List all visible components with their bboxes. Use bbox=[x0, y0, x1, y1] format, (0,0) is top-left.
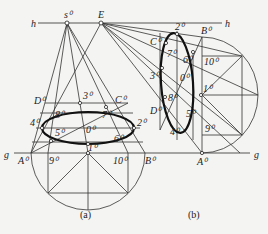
label-b-3: 3⁰ bbox=[149, 70, 161, 81]
label-b-D: D⁰ bbox=[149, 105, 163, 116]
label-a-0: 0⁰ bbox=[86, 124, 97, 135]
label-b-6: 6⁰ bbox=[183, 54, 194, 65]
label-a-D: D⁰ bbox=[33, 95, 47, 106]
label-E: E bbox=[97, 9, 104, 20]
label-a-3: 3⁰ bbox=[82, 90, 94, 101]
label-b-5: 5⁰ bbox=[186, 108, 197, 119]
label-a-10: 10⁰ bbox=[113, 155, 129, 166]
label-a-A: A⁰ bbox=[17, 155, 30, 166]
label-b-B: B⁰ bbox=[201, 25, 213, 36]
label-b-C: C⁰ bbox=[150, 36, 163, 47]
label-b-4: 4⁰ bbox=[170, 126, 181, 137]
label-b-A: A⁰ bbox=[196, 156, 209, 167]
label-g-left: g bbox=[4, 149, 9, 160]
label-a-9: 9⁰ bbox=[49, 155, 60, 166]
caption-a: (a) bbox=[80, 209, 91, 221]
label-b-0: 0⁰ bbox=[180, 72, 191, 83]
label-a-B: B⁰ bbox=[145, 155, 157, 166]
label-a-2: 2⁰ bbox=[137, 117, 148, 128]
caption-b: (b) bbox=[188, 209, 200, 221]
perspective-circle-diagram: h h g g s⁰ E D⁰ 3⁰ C⁰ 8⁰ 7⁰ 4⁰ 0⁰ 2⁰ 5⁰ … bbox=[0, 0, 268, 234]
label-a-5: 5⁰ bbox=[55, 127, 66, 138]
label-g-right: g bbox=[254, 149, 259, 160]
label-s: s⁰ bbox=[64, 9, 74, 20]
label-h-right: h bbox=[225, 18, 230, 29]
label-h-left: h bbox=[31, 18, 36, 29]
label-b-10: 10⁰ bbox=[204, 56, 220, 67]
